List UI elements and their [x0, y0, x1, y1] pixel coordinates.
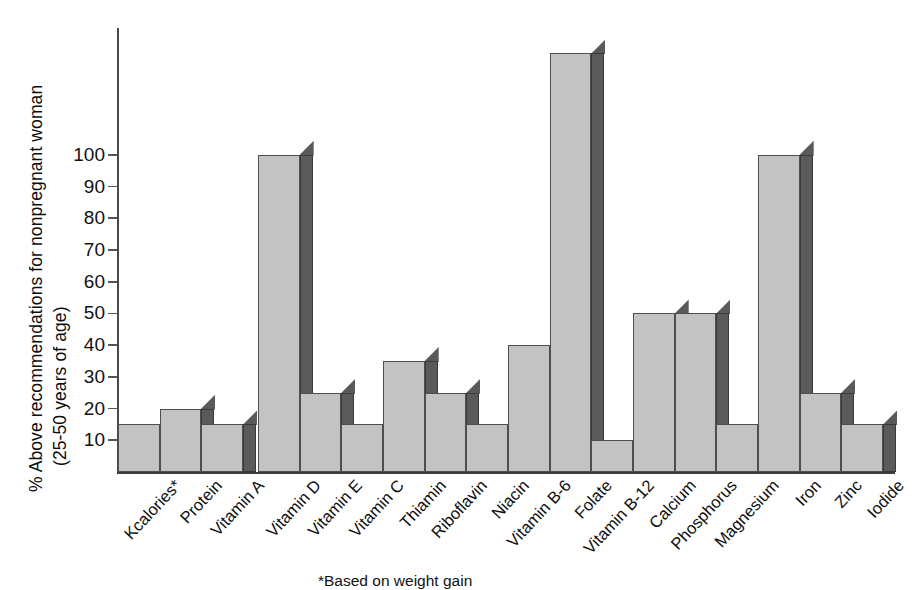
bar-top-face — [840, 379, 855, 394]
chart-footnote: *Based on weight gain — [318, 572, 472, 590]
bar — [118, 411, 160, 472]
y-axis-tick-label: 60 — [84, 272, 105, 291]
y-axis-tick — [108, 313, 117, 315]
y-axis-tick — [108, 344, 117, 346]
y-axis-tick — [108, 376, 117, 378]
x-axis-tick-label: Iodide — [894, 443, 918, 489]
y-axis-tick-label: 90 — [84, 177, 105, 196]
y-axis-tick — [108, 439, 117, 441]
y-axis-tick — [108, 154, 117, 156]
bar — [550, 40, 592, 472]
y-axis-tick — [108, 281, 117, 283]
bar-front-face — [258, 155, 300, 472]
y-axis-tick-label: 80 — [84, 208, 105, 227]
bar-top-face — [590, 39, 605, 54]
y-axis-tick — [108, 186, 117, 188]
bar-top-face — [299, 141, 314, 156]
bar — [258, 142, 300, 472]
y-axis-tick-label: 10 — [84, 430, 105, 449]
plot-area: 102030405060708090100 — [117, 28, 895, 472]
y-axis-tick — [108, 408, 117, 410]
x-axis-tick-labels: Kcalories*ProteinVitamin AVitamin DVitam… — [117, 476, 907, 576]
y-axis-tick-label: 40 — [84, 335, 105, 354]
bar-side-face — [591, 53, 604, 472]
bar-series — [117, 28, 895, 472]
bar-top-face — [882, 410, 897, 425]
y-axis-tick-labels: 102030405060708090100 — [49, 28, 105, 472]
bar-top-face — [424, 347, 439, 362]
y-axis-tick — [108, 249, 117, 251]
y-axis-tick-label: 20 — [84, 399, 105, 418]
bar — [633, 300, 675, 472]
bar-top-face — [242, 410, 257, 425]
y-axis-tick-label: 50 — [84, 303, 105, 322]
y-axis-title-line-1: % Above recommendations for nonpregnant … — [26, 85, 47, 492]
y-axis-tick-label: 30 — [84, 367, 105, 386]
y-axis-tick-label: 70 — [84, 240, 105, 259]
bar-front-face — [550, 53, 592, 472]
bar-front-face — [118, 424, 160, 472]
bar-top-face — [340, 379, 355, 394]
bar-top-face — [715, 299, 730, 314]
bar-top-face — [200, 395, 215, 410]
bar-top-face — [799, 141, 814, 156]
bar-top-face — [465, 379, 480, 394]
y-axis-tick — [108, 217, 117, 219]
y-axis-tick-label: 100 — [73, 145, 105, 164]
